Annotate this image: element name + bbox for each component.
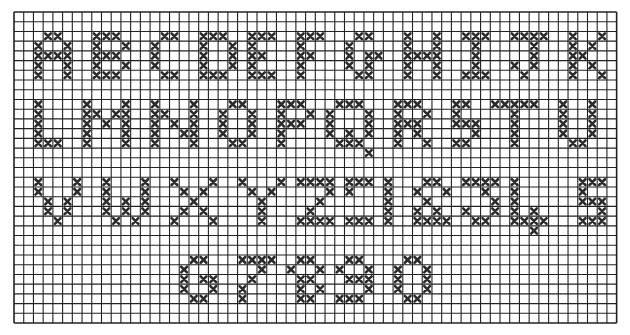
cross-stitch-icon	[366, 267, 372, 273]
cross-stitch-icon	[142, 208, 148, 214]
cross-stitch-icon	[103, 53, 109, 59]
cross-stitch-icon	[308, 208, 314, 214]
cross-stitch-icon	[259, 208, 265, 214]
cross-stitch-icon	[317, 218, 323, 224]
cross-stitch-icon	[317, 33, 323, 39]
cross-stitch-icon	[327, 179, 333, 185]
cross-stitch-icon	[589, 63, 595, 69]
glyph-8	[580, 179, 605, 224]
glyph-y	[240, 179, 285, 224]
cross-stitch-icon	[55, 218, 61, 224]
cross-stitch-icon	[152, 121, 158, 127]
cross-stitch-icon	[570, 140, 576, 146]
cross-stitch-icon	[424, 276, 430, 282]
cross-stitch-icon	[210, 218, 216, 224]
cross-stitch-icon	[512, 111, 518, 117]
cross-stitch-icon	[201, 53, 207, 59]
cross-stitch-icon	[94, 33, 100, 39]
cross-stitch-icon	[346, 257, 352, 263]
cross-stitch-icon	[65, 199, 71, 205]
cross-stitch-icon	[308, 296, 314, 302]
cross-stitch-icon	[580, 189, 586, 195]
cross-stitch-icon	[298, 33, 304, 39]
cross-stitch-icon	[415, 131, 421, 137]
cross-stitch-icon	[142, 179, 148, 185]
cross-stitch-chart: Cross-stitch alphabet and numerals chart	[0, 0, 630, 335]
cross-stitch-icon	[308, 257, 314, 263]
cross-stitch-icon	[278, 179, 284, 185]
cross-stitch-icon	[210, 286, 216, 292]
cross-stitch-icon	[570, 72, 576, 78]
cross-stitch-icon	[123, 131, 129, 137]
cross-stitch-icon	[201, 33, 207, 39]
cross-stitch-icon	[74, 179, 80, 185]
cross-stitch-icon	[249, 131, 255, 137]
glyph-t	[492, 101, 537, 146]
cross-stitch-icon	[434, 53, 440, 59]
cross-stitch-icon	[278, 121, 284, 127]
cross-stitch-icon	[55, 33, 61, 39]
cross-stitch-icon	[385, 199, 391, 205]
cross-stitch-icon	[415, 218, 421, 224]
cross-stitch-icon	[570, 43, 576, 49]
cross-stitch-icon	[356, 296, 362, 302]
cross-stitch-icon	[201, 257, 207, 263]
cross-stitch-icon	[181, 208, 187, 214]
cross-stitch-icon	[463, 121, 469, 127]
cross-stitch-icon	[346, 296, 352, 302]
cross-stitch-icon	[512, 218, 518, 224]
cross-stitch-icon	[366, 131, 372, 137]
cross-stitch-icon	[65, 43, 71, 49]
cross-stitch-icon	[240, 101, 246, 107]
cross-stitch-icon	[45, 33, 51, 39]
cross-stitch-icon	[201, 208, 207, 214]
cross-stitch-icon	[123, 43, 129, 49]
cross-stitch-icon	[249, 72, 255, 78]
cross-stitch-icon	[356, 72, 362, 78]
cross-stitch-icon	[103, 33, 109, 39]
cross-stitch-icon	[395, 111, 401, 117]
cross-stitch-icon	[123, 63, 129, 69]
cross-stitch-icon	[172, 33, 178, 39]
cross-stitch-icon	[74, 189, 80, 195]
cross-stitch-icon	[385, 189, 391, 195]
cross-stitch-icon	[142, 199, 148, 205]
glyph-m	[84, 101, 129, 146]
cross-stitch-icon	[249, 43, 255, 49]
cross-stitch-icon	[560, 111, 566, 117]
cross-stitch-icon	[123, 111, 129, 117]
cross-stitch-icon	[191, 131, 197, 137]
cross-stitch-icon	[327, 218, 333, 224]
cross-stitch-icon	[240, 257, 246, 263]
cross-stitch-icon	[366, 111, 372, 117]
cross-stitch-icon	[356, 33, 362, 39]
cross-stitch-icon	[259, 199, 265, 205]
cross-stitch-icon	[103, 121, 109, 127]
cross-stitch-icon	[463, 208, 469, 214]
cross-stitch-icon	[512, 140, 518, 146]
cross-stitch-icon	[531, 33, 537, 39]
cross-stitch-icon	[317, 286, 323, 292]
cross-stitch-icon	[512, 121, 518, 127]
cross-stitch-icon	[434, 33, 440, 39]
cross-stitch-icon	[415, 189, 421, 195]
cross-stitch-icon	[463, 140, 469, 146]
cross-stitch-icon	[162, 111, 168, 117]
cross-stitch-icon	[103, 72, 109, 78]
cross-stitch-icon	[415, 296, 421, 302]
cross-stitch-icon	[152, 43, 158, 49]
cross-stitch-icon	[541, 33, 547, 39]
cross-stitch-icon	[512, 199, 518, 205]
cross-stitch-icon	[298, 101, 304, 107]
cross-stitch-icon	[191, 296, 197, 302]
cross-stitch-icon	[45, 199, 51, 205]
cross-stitch-icon	[162, 72, 168, 78]
cross-stitch-icon	[405, 121, 411, 127]
cross-stitch-icon	[512, 208, 518, 214]
glyph-w	[103, 179, 148, 224]
glyph-f	[298, 33, 323, 78]
cross-stitch-icon	[35, 63, 41, 69]
cross-stitch-icon	[220, 131, 226, 137]
cross-stitch-icon	[415, 208, 421, 214]
cross-stitch-icon	[366, 72, 372, 78]
